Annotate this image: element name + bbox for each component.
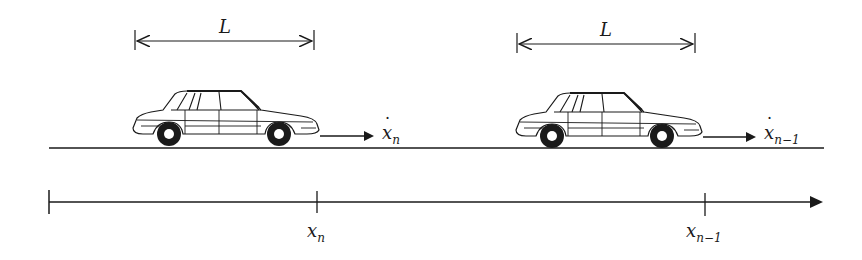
velocity-sub: n−1 [774, 133, 799, 147]
position-sub: n−1 [696, 231, 721, 245]
velocity-arrow-follower [320, 131, 374, 141]
car-following-diagram [0, 0, 862, 260]
velocity-var: x [764, 122, 774, 143]
length-label-follower: L [219, 16, 231, 37]
velocity-var: x [382, 122, 392, 143]
velocity-label-leader: xn−1 [764, 122, 800, 143]
position-var: x [686, 220, 696, 241]
velocity-sub: n [392, 133, 400, 147]
car-follower-icon [133, 91, 319, 146]
velocity-arrow-leader [703, 132, 756, 142]
position-var: x [307, 220, 317, 241]
position-label-leader: xn−1 [686, 220, 722, 241]
length-label-leader: L [600, 19, 612, 40]
position-axis [49, 190, 823, 216]
position-label-follower: xn [307, 220, 325, 241]
position-sub: n [317, 231, 325, 245]
car-leader-icon [516, 93, 702, 148]
velocity-label-follower: xn [382, 122, 400, 143]
